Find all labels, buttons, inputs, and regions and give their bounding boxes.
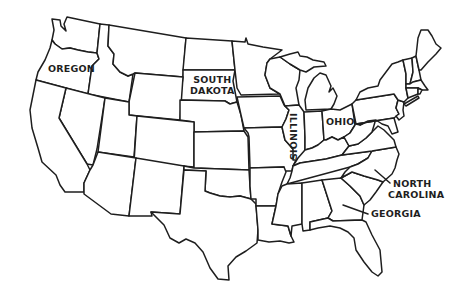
state-wyoming [129,73,183,120]
state-montana [108,25,186,77]
state-rhode-island [418,88,422,94]
state-kansas [194,131,249,170]
label-north-carolina: NORTH CAROLINA [388,178,444,200]
state-north-dakota [183,38,235,70]
label-north-carolina-line2: CAROLINA [388,189,444,200]
label-illinois: ILLINOIS [288,113,299,160]
us-map-svg [0,0,469,302]
state-michigan-lower [305,73,337,110]
label-ohio: OHIO [326,116,354,127]
state-new-jersey [396,100,404,120]
state-maine [416,30,441,70]
state-iowa [237,96,289,128]
label-south-dakota: SOUTH DAKOTA [190,74,235,96]
state-new-mexico [129,158,184,216]
state-florida [310,218,382,276]
label-north-carolina-line1: NORTH [388,178,444,189]
state-new-york [356,60,408,102]
label-georgia: GEORGIA [371,208,421,219]
label-oregon: OREGON [48,63,95,74]
label-south-dakota-line2: DAKOTA [190,85,235,96]
label-south-dakota-line1: SOUTH [190,74,235,85]
us-outline-map: OREGON SOUTH DAKOTA ILLINOIS OHIO NORTH … [0,0,469,302]
